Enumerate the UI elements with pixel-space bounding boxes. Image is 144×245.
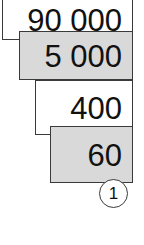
value-hundreds: 400	[70, 93, 122, 124]
value-thousands: 5 000	[44, 41, 122, 72]
marker-label: 1	[109, 184, 118, 204]
place-value-box-tens: 60	[50, 126, 133, 183]
circled-number-marker: 1	[99, 179, 128, 208]
place-value-box-thousands: 5 000	[19, 31, 133, 80]
value-tens: 60	[88, 140, 122, 171]
